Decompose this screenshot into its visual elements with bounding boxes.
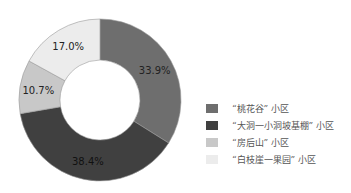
legend-swatch — [206, 104, 218, 113]
legend-item: “房后山” 小区 — [206, 134, 334, 150]
legend: “桃花谷” 小区 “大洞一小洞坡基棚” 小区 “房后山” 小区 “白枝崖一果园”… — [206, 100, 334, 168]
legend-swatch — [206, 155, 218, 164]
slice-label-baizhiya: 17.0% — [52, 41, 84, 52]
legend-item: “白枝崖一果园” 小区 — [206, 151, 334, 167]
legend-swatch — [206, 121, 218, 130]
legend-label: “桃花谷” 小区 — [232, 102, 289, 115]
legend-label: “白枝崖一果园” 小区 — [232, 153, 316, 166]
donut-slice — [100, 19, 181, 143]
legend-label: “大洞一小洞坡基棚” 小区 — [232, 119, 334, 132]
slice-label-taohuagu: 33.9% — [139, 64, 171, 75]
slice-label-fanghoushan: 10.7% — [22, 84, 54, 95]
legend-swatch — [206, 138, 218, 147]
legend-label: “房后山” 小区 — [232, 136, 289, 149]
legend-item: “大洞一小洞坡基棚” 小区 — [206, 117, 334, 133]
legend-item: “桃花谷” 小区 — [206, 100, 334, 116]
slice-label-dadong: 38.4% — [72, 156, 104, 167]
